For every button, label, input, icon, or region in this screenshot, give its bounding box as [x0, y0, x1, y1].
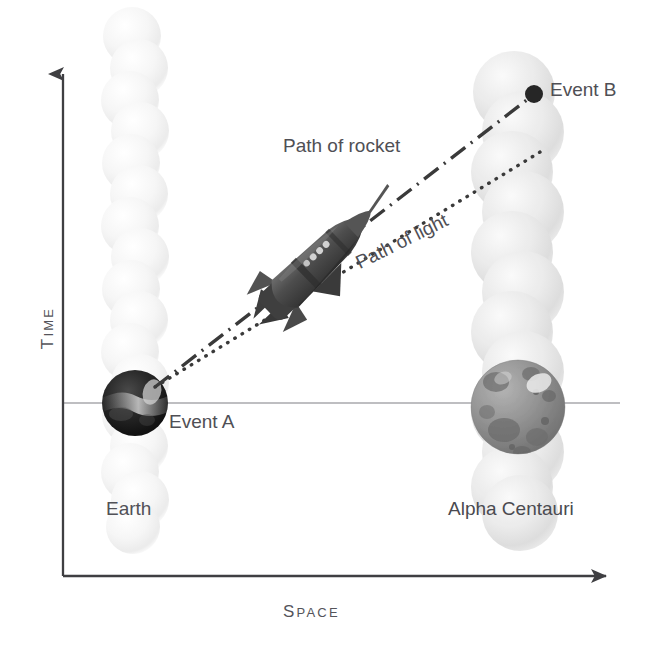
- event-a-label: Event A: [169, 411, 235, 433]
- axis-space-label-cap: S: [283, 602, 297, 621]
- axis-space-label: SPACE: [283, 602, 340, 622]
- alpha-centauri-worldline: [471, 51, 564, 551]
- earth-sphere: [102, 370, 168, 436]
- axis-time-label-cap: T: [38, 337, 57, 350]
- event-b-marker: [525, 85, 543, 103]
- alpha-centauri-label: Alpha Centauri: [448, 498, 574, 520]
- earth-worldline: [101, 7, 169, 554]
- path-of-rocket-label: Path of rocket: [283, 135, 400, 157]
- event-b-label: Event B: [550, 79, 617, 101]
- spacetime-diagram-figure: TIME SPACE Path of rocket Path of light …: [0, 0, 665, 650]
- earth-label: Earth: [106, 498, 151, 520]
- axis-space-label-rest: PACE: [297, 605, 340, 620]
- axis-time-label-rest: IME: [41, 307, 56, 337]
- axis-time-label: TIME: [38, 268, 58, 388]
